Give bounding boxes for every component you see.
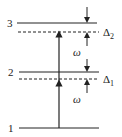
- level-2-label: 2: [8, 66, 14, 78]
- omega-upper-label: ω: [73, 46, 81, 58]
- delta1-label: Δ1: [103, 73, 114, 88]
- level-1-label: 1: [8, 122, 14, 134]
- energy-level-diagram: 3 2 1 Δ2 Δ1 ω ω: [0, 0, 122, 137]
- delta2-label: Δ2: [103, 26, 114, 41]
- level-3-label: 3: [7, 17, 13, 29]
- omega-lower-label: ω: [73, 93, 81, 105]
